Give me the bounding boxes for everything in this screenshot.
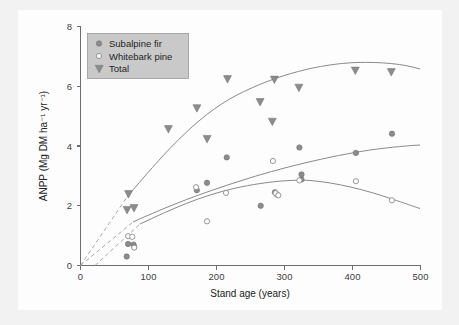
- data-point-subalpine-fir: [299, 172, 304, 177]
- data-point-total: [130, 205, 138, 213]
- data-point-total: [351, 67, 359, 75]
- series-total-points: [123, 67, 395, 214]
- data-point-whitebark-pine: [353, 179, 358, 184]
- data-point-total: [164, 126, 172, 134]
- anpp-stand-age-scatter-chart: 8 6 4 2 0 0 100 200 300 400 500 Stand ag…: [0, 0, 459, 325]
- data-point-total: [203, 135, 211, 143]
- y-tick-label-2: 2: [67, 200, 72, 211]
- y-tick-label-6: 6: [67, 81, 72, 92]
- legend-marker-whitebark-pine: [96, 53, 101, 58]
- data-point-subalpine-fir: [258, 203, 263, 208]
- data-point-whitebark-pine: [132, 245, 137, 250]
- data-point-total: [193, 105, 201, 113]
- y-axis-ticks: 8 6 4 2 0: [67, 21, 81, 271]
- x-axis-ticks: 0 100 200 300 400 500: [78, 266, 429, 283]
- y-tick-label-4: 4: [67, 141, 72, 152]
- data-point-subalpine-fir: [204, 180, 209, 185]
- x-tick-label-400: 400: [345, 271, 361, 282]
- data-point-subalpine-fir: [224, 155, 229, 160]
- data-point-subalpine-fir: [125, 241, 130, 246]
- figure-panel: 8 6 4 2 0 0 100 200 300 400 500 Stand ag…: [0, 0, 459, 325]
- chart-legend: Subalpine fir Whitebark pine Total: [88, 34, 189, 79]
- y-tick-label-8: 8: [67, 21, 72, 32]
- data-point-subalpine-fir: [353, 150, 358, 155]
- whitebark-pine-fit-curve: [140, 180, 420, 224]
- legend-label-total: Total: [109, 63, 129, 74]
- data-point-total: [224, 76, 232, 84]
- data-point-whitebark-pine: [389, 198, 394, 203]
- data-point-total: [387, 69, 395, 77]
- data-point-subalpine-fir: [297, 145, 302, 150]
- total-fit-curve: [127, 62, 420, 197]
- x-tick-label-500: 500: [413, 271, 429, 282]
- data-point-whitebark-pine: [223, 190, 228, 195]
- x-tick-label-100: 100: [141, 271, 157, 282]
- x-axis-title: Stand age (years): [210, 288, 290, 299]
- data-point-total: [256, 99, 264, 107]
- y-tick-label-0: 0: [67, 260, 72, 271]
- total-extrapolation-curve: [81, 197, 128, 266]
- data-point-subalpine-fir: [124, 254, 129, 259]
- x-tick-label-300: 300: [277, 271, 293, 282]
- subalpine-fir-fit-curve: [133, 145, 420, 222]
- fit-extrapolations: [81, 197, 141, 266]
- data-point-total: [295, 84, 303, 92]
- data-point-subalpine-fir: [389, 131, 394, 136]
- data-point-whitebark-pine: [204, 219, 209, 224]
- legend-label-subalpine-fir: Subalpine fir: [109, 38, 162, 49]
- x-tick-label-0: 0: [78, 271, 83, 282]
- data-point-total: [125, 191, 133, 199]
- data-point-whitebark-pine: [276, 193, 281, 198]
- y-axis-title: ANPP (Mg DM ha⁻¹ yr⁻¹): [38, 91, 49, 201]
- legend-label-whitebark-pine: Whitebark pine: [109, 51, 172, 62]
- data-point-total: [268, 118, 276, 126]
- data-point-whitebark-pine: [194, 185, 199, 190]
- data-point-total: [123, 206, 131, 214]
- x-tick-label-200: 200: [209, 271, 225, 282]
- data-point-whitebark-pine: [270, 158, 275, 163]
- data-point-whitebark-pine: [297, 178, 302, 183]
- fit-curves: [127, 62, 420, 224]
- legend-marker-subalpine-fir: [96, 41, 101, 46]
- data-point-whitebark-pine: [130, 234, 135, 239]
- series-subalpine-fir-points: [124, 131, 395, 259]
